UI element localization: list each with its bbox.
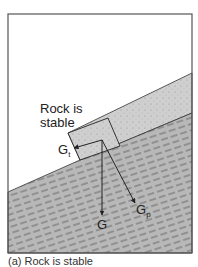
force-gt-label: Gt bbox=[58, 143, 70, 159]
rock-stable-line1: Rock is bbox=[40, 102, 83, 116]
force-gp-label: Gp bbox=[136, 203, 151, 219]
gt-symbol: G bbox=[58, 142, 68, 157]
gp-subscript: p bbox=[146, 210, 150, 219]
figure-caption: (a) Rock is stable bbox=[8, 255, 93, 267]
gp-symbol: G bbox=[136, 202, 146, 217]
rock-stable-label: Rock is stable bbox=[40, 102, 83, 130]
gt-subscript: t bbox=[68, 150, 70, 159]
g-symbol: G bbox=[97, 217, 107, 232]
force-g-label: G bbox=[97, 218, 107, 232]
rock-stable-line2: stable bbox=[40, 116, 83, 130]
